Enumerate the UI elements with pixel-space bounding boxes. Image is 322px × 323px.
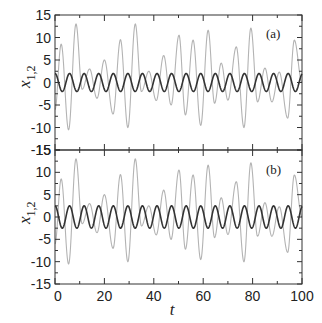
grey-series-line <box>55 159 302 264</box>
x-tick-label: 0 <box>54 288 62 304</box>
y-tick-label: 10 <box>35 164 51 180</box>
y-tick-label: -10 <box>31 120 51 136</box>
panel-a-ylabel: x1,2 <box>15 65 38 89</box>
x-tick-label: 80 <box>245 288 261 304</box>
ylabel-sub: 1,2 <box>24 201 38 216</box>
x-axis-label: t <box>170 300 176 319</box>
x-tick-label: 100 <box>290 288 314 304</box>
figure: -15-10-5051015 (a) x1,2 -15-10-505101502… <box>0 0 322 323</box>
ylabel-sub: 1,2 <box>24 65 38 80</box>
y-tick-label: 15 <box>35 142 51 158</box>
y-tick-label: -10 <box>31 254 51 270</box>
y-tick-label: 0 <box>43 75 51 91</box>
y-tick-label: -5 <box>39 97 52 113</box>
x-tick-label: 40 <box>146 288 162 304</box>
y-tick-label: 10 <box>35 30 51 46</box>
x-tick-label: 20 <box>97 288 113 304</box>
y-tick-label: 0 <box>43 209 51 225</box>
panel-b-ylabel: x1,2 <box>15 201 38 225</box>
y-tick-label: -15 <box>31 276 51 292</box>
panel-a-curves <box>55 24 302 130</box>
panel-b: -15-10-5051015020406080100 (b) x1,2 <box>15 142 314 304</box>
panel-a-label: (a) <box>266 26 280 41</box>
panel-a: -15-10-5051015 (a) x1,2 <box>15 7 302 158</box>
x-tick-label: 60 <box>195 288 211 304</box>
y-tick-label: 5 <box>43 187 51 203</box>
panel-b-label: (b) <box>266 162 281 177</box>
y-tick-label: 5 <box>43 52 51 68</box>
panel-b-curves <box>55 159 302 264</box>
y-tick-label: -5 <box>39 231 52 247</box>
grey-series-line <box>55 24 302 130</box>
y-tick-label: 15 <box>35 7 51 23</box>
